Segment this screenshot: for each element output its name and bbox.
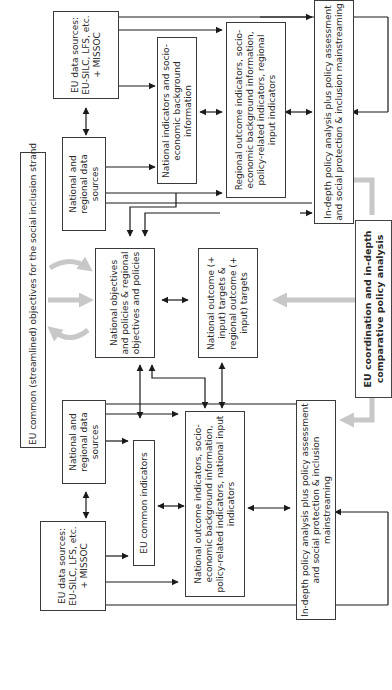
national-objectives-label: National objectives and policies & regio…: [109, 251, 142, 355]
national-regional-data-top-label: National and regional data sources: [68, 144, 101, 224]
indepth-top-box: In-depth policy analysis plus policy ass…: [314, 0, 354, 224]
regional-outcome-indicators-label: Regional outcome indicators, socio-econo…: [234, 26, 278, 194]
national-outcome-indicators-box: National outcome indicators, socio-econo…: [185, 411, 245, 597]
eu-common-indicators-label: EU common indicators: [139, 452, 150, 554]
national-regional-data-bottom-label: National and regional data sources: [68, 402, 101, 482]
eu-data-sources-top-label: EU data sources: EU-SILC, LFS, etc. + MI…: [70, 15, 103, 95]
national-indicators-bg-box: National indicators and socio-economic b…: [157, 37, 197, 184]
national-outcome-indicators-label: National outcome indicators, socio-econo…: [193, 414, 237, 594]
national-outcome-targets-box: National outcome (+ input) targets & reg…: [198, 248, 258, 358]
eu-data-sources-top-box: EU data sources: EU-SILC, LFS, etc. + MI…: [53, 11, 119, 99]
eu-objectives-box: EU common (streamlined) objectives for t…: [20, 152, 46, 448]
eu-data-sources-bottom-box: EU data sources: EU-SILC, LFS, etc. + MI…: [40, 521, 106, 611]
indepth-top-label: In-depth policy analysis plus policy ass…: [323, 2, 345, 222]
eu-coordination-label: EU coordination and in-depth comparative…: [362, 224, 386, 394]
national-indicators-bg-label: National indicators and socio-economic b…: [161, 41, 194, 181]
national-outcome-targets-label: National outcome (+ input) targets & reg…: [206, 251, 250, 355]
eu-common-indicators-box: EU common indicators: [133, 440, 155, 566]
eu-objectives-label: EU common (streamlined) objectives for t…: [28, 155, 39, 445]
indepth-bottom-label: In-depth policy analysis plus policy ass…: [300, 402, 333, 618]
national-objectives-box: National objectives and policies & regio…: [95, 248, 155, 358]
indepth-bottom-box: In-depth policy analysis plus policy ass…: [296, 400, 336, 620]
eu-data-sources-bottom-label: EU data sources: EU-SILC, LFS, etc. + MI…: [57, 526, 90, 606]
regional-outcome-indicators-box: Regional outcome indicators, socio-econo…: [226, 22, 286, 198]
national-regional-data-bottom-box: National and regional data sources: [62, 400, 106, 484]
eu-coordination-box: EU coordination and in-depth comparative…: [355, 220, 392, 398]
national-regional-data-top-box: National and regional data sources: [62, 137, 106, 231]
